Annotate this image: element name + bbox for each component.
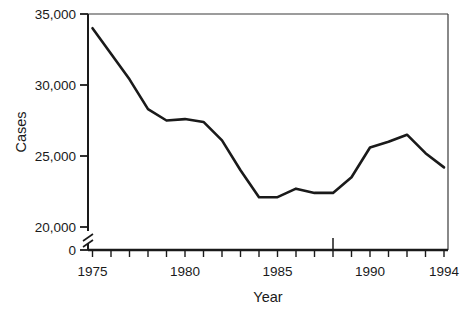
chart-canvas: 35,000 30,000 25,000 20,000 0	[0, 0, 475, 317]
y-axis-ticks	[80, 14, 88, 250]
y-tick-label-25000: 25,000	[35, 149, 76, 164]
y-axis-title: Cases	[13, 111, 29, 152]
y-tick-label-30000: 30,000	[35, 78, 76, 93]
x-tick-label-1980: 1980	[170, 264, 200, 279]
x-axis-title: Year	[253, 289, 282, 305]
line-chart-figure: 35,000 30,000 25,000 20,000 0	[0, 0, 475, 317]
plot-frame	[88, 14, 448, 250]
x-tick-label-1994: 1994	[429, 264, 460, 279]
x-tick-label-1985: 1985	[262, 264, 292, 279]
data-series-line	[93, 28, 445, 197]
y-tick-label-0: 0	[68, 243, 76, 258]
x-tick-label-1975: 1975	[77, 264, 107, 279]
y-tick-label-35000: 35,000	[35, 7, 76, 22]
x-tick-label-1990: 1990	[355, 264, 385, 279]
y-tick-label-20000: 20,000	[35, 220, 76, 235]
